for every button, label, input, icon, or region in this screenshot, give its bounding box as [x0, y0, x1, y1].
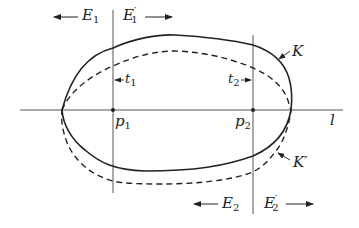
label-p2-sub: 2 — [245, 120, 251, 131]
label-t1-sub: 1 — [130, 77, 136, 88]
label-t1: t1 — [125, 72, 137, 88]
label-e2p-sub: 2 — [272, 202, 278, 213]
label-e1p-sub: 1 — [131, 14, 137, 25]
label-kp-text: K — [293, 153, 304, 171]
label-e2-sub: 2 — [233, 202, 239, 213]
label-p2: p2 — [235, 114, 251, 131]
label-e1-prime: E′1 — [123, 6, 138, 25]
label-t2: t2 — [228, 72, 240, 88]
label-e2: E2 — [222, 196, 239, 213]
label-t2-sub: 2 — [233, 77, 239, 88]
diagram-svg — [0, 0, 359, 228]
label-p1-text: p — [115, 112, 125, 130]
label-k: K — [292, 44, 303, 59]
label-k-prime: K′ — [293, 155, 308, 170]
label-k-text: K — [292, 42, 303, 60]
label-e2-text: E — [222, 194, 233, 212]
label-e1-sub: 1 — [93, 14, 99, 25]
pointer-k — [279, 51, 290, 59]
curve-k — [62, 35, 292, 171]
label-e1-text: E — [82, 6, 93, 24]
label-e1: E1 — [82, 8, 99, 25]
label-l: l — [330, 113, 335, 128]
label-p1: p1 — [115, 114, 131, 131]
label-kp-prime: ′ — [304, 153, 307, 171]
diagram-canvas: E1 E′1 E2 E′2 t1 t2 p1 p2 l K K′ — [0, 0, 359, 228]
pointer-k-prime — [278, 153, 290, 160]
label-l-text: l — [330, 111, 335, 129]
point-p2 — [251, 108, 255, 112]
label-e2-prime: E′2 — [264, 194, 279, 213]
curve-k-prime — [62, 51, 291, 184]
label-p1-sub: 1 — [125, 120, 131, 131]
label-p2-text: p — [235, 112, 245, 130]
